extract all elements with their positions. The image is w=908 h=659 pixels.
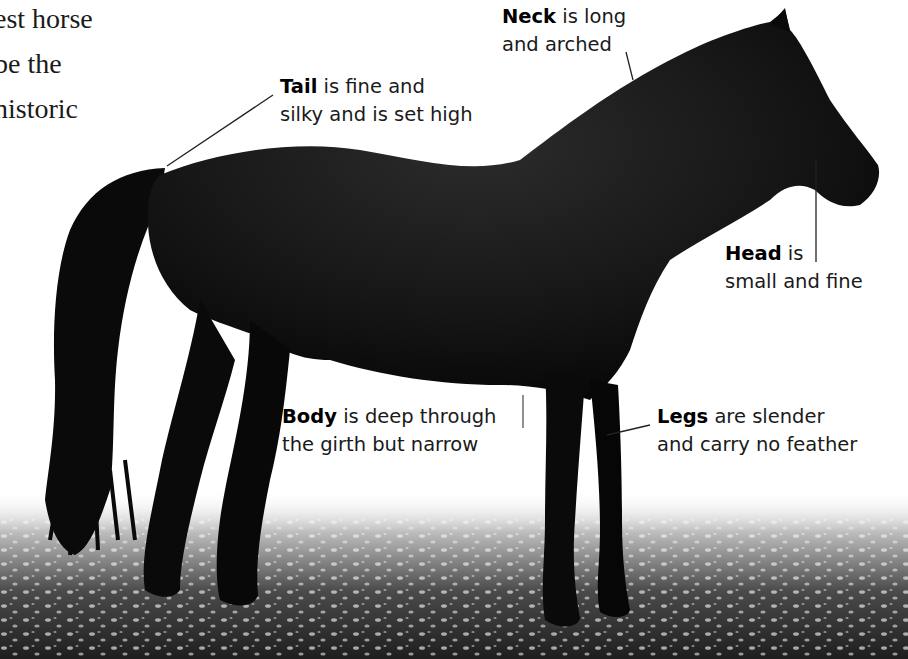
- callout-tail: Tail is fine and silky and is set high: [280, 73, 473, 129]
- neck-leader-line: [626, 52, 633, 80]
- callout-term: Neck: [502, 5, 556, 28]
- callout-term: Legs: [657, 405, 708, 428]
- callout-body: Body is deep through the girth but narro…: [282, 403, 496, 459]
- body-text-line: est horse: [0, 0, 93, 41]
- body-text-fragment: est horse be the nistoric: [0, 0, 93, 131]
- body-text-line: nistoric: [0, 86, 93, 131]
- callout-term: Tail: [280, 75, 317, 98]
- callout-legs: Legs are slender and carry no feather: [657, 403, 857, 459]
- body-text-line: be the: [0, 41, 93, 86]
- callout-term: Head: [725, 242, 782, 265]
- callout-term: Body: [282, 405, 337, 428]
- book-page: est horse be the nistoric Neck is long a…: [0, 0, 908, 659]
- callout-neck: Neck is long and arched: [502, 3, 626, 59]
- callout-head: Head is small and fine: [725, 240, 863, 296]
